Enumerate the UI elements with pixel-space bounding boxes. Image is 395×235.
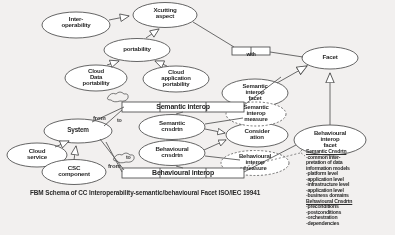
node-interoperability: [42, 12, 110, 38]
node-behavioural-cnsdrtn: [139, 141, 205, 166]
notes-behavioural-item-3: -dependencies: [306, 221, 392, 227]
edge-clouddata-to-portability: [107, 61, 119, 65]
edge-interop-to-xcutting: [109, 16, 129, 20]
edge-portability-to-xcutting: [146, 29, 159, 38]
assoc-label-behavioural-interop: Behavioural interop: [122, 169, 244, 176]
node-cloud-data-portability: [65, 65, 127, 91]
node-portability: [104, 39, 170, 62]
edge-semfacet-to-facet: [277, 66, 307, 83]
cloud-squiggle-top: [107, 92, 128, 102]
node-facet: [302, 47, 358, 69]
cloud-squiggle-bottom: [113, 153, 134, 163]
notes-panel: Semantic Cnsdrtn -common inter- pretatio…: [306, 149, 392, 226]
node-consideration: [226, 123, 288, 147]
edge-cloudapp-to-portability: [155, 61, 167, 66]
node-semantic-cnsdrtn: [139, 115, 205, 140]
edge-label-from-bottom: from: [108, 163, 121, 169]
figure-caption: FBM Schema of CC Interoperability-semant…: [30, 189, 260, 196]
diagram-canvas: Inter-operability Xcuttingaspect portabi…: [0, 0, 395, 235]
edge-label-from-top: from: [93, 115, 106, 121]
edge-label-to-bottom: to: [126, 154, 131, 160]
node-csc-component: [42, 160, 106, 185]
assoc-label-semantic-interop: Semantic interop: [122, 103, 244, 110]
edge-csc-to-system: [74, 146, 76, 160]
edge-with-to-facet: [270, 52, 303, 57]
edge-behcnsdrtn-to-consideration: [204, 140, 226, 150]
node-cloud-application-portability: [143, 66, 209, 92]
edge-label-to-top: to: [117, 117, 122, 123]
node-xcutting-aspect: [133, 3, 197, 28]
edge-xcutting-to-with: [193, 22, 234, 47]
node-system: [44, 119, 112, 143]
edge-semcnsdrtn-to-consideration: [205, 129, 225, 133]
assoc-label-with: with: [232, 51, 270, 57]
